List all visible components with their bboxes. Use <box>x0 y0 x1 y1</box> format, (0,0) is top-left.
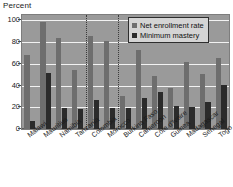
gridline-40 <box>22 86 229 87</box>
chart-legend: Net enrollment rateMinimum mastery <box>128 17 209 43</box>
legend-swatch-icon-min <box>132 33 137 38</box>
group-separator-after-tanzania <box>86 15 88 129</box>
bar-net-enrollment-rate-malawi <box>24 55 29 129</box>
bar-net-enrollment-rate-mauritius <box>40 22 45 129</box>
legend-swatch-icon-net <box>132 23 137 28</box>
gridline-60 <box>22 64 229 65</box>
legend-item-min[interactable]: Minimum mastery <box>132 30 204 40</box>
legend-label-min: Minimum mastery <box>140 31 199 40</box>
chart-root: Percent 020406080100 MalawiMauritiusNami… <box>0 0 233 187</box>
bar-net-enrollment-rate-colombia <box>88 36 93 129</box>
bar-minimum-mastery-mauritius <box>46 73 51 129</box>
bar-net-enrollment-rate-morocco <box>104 41 109 129</box>
y-axis: 020406080100 <box>0 14 20 130</box>
legend-item-net[interactable]: Net enrollment rate <box>132 20 204 30</box>
group-separator-after-morocco <box>118 15 120 129</box>
y-axis-title: Percent <box>3 1 31 10</box>
legend-label-net: Net enrollment rate <box>140 21 204 30</box>
bar-net-enrollment-rate-namibia <box>56 38 61 129</box>
x-axis-labels: MalawiMauritiusNamibiaTanzaniaColombiaMo… <box>0 130 233 187</box>
